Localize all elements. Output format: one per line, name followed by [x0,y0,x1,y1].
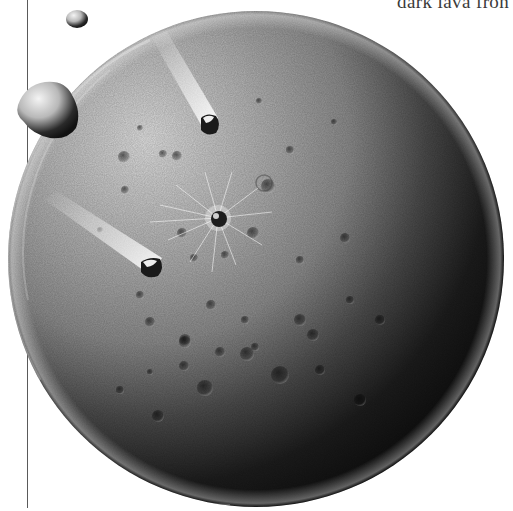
large-floating-rock [17,82,78,139]
small-floating-rock [66,10,88,28]
planet [7,11,504,507]
planet-illustration [0,0,513,511]
